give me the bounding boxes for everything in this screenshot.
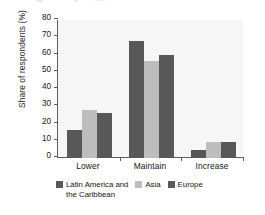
y-axis-title: Share of respondents (%) — [17, 0, 27, 119]
bar-chart-figure: Share of respondents (%) 010203040506070… — [0, 0, 265, 215]
legend-label: Latin America and — [66, 180, 128, 190]
scan-artifact-blob — [36, 0, 43, 2]
y-axis-tick-label: 40 — [42, 82, 51, 91]
bar — [221, 142, 236, 158]
y-axis-tick-label: 20 — [42, 117, 51, 126]
bar — [144, 61, 159, 158]
scan-artifact-blob — [95, 0, 105, 1]
bar-group — [182, 20, 244, 158]
y-axis-tick-label: 10 — [42, 134, 51, 143]
bar-group — [58, 20, 120, 158]
bar — [97, 113, 112, 158]
x-axis-tick — [243, 157, 244, 161]
x-axis-label-lower: Lower — [57, 161, 119, 171]
y-axis-tick-label: 30 — [42, 99, 51, 108]
legend-entry[interactable]: Europe — [168, 180, 203, 190]
y-axis-tick-label: 80 — [42, 13, 51, 22]
x-axis-labels: LowerMaintainIncrease — [57, 161, 243, 171]
bar — [191, 150, 206, 158]
y-axis-tick-label: 60 — [42, 48, 51, 57]
y-axis-tick: 80 — [54, 18, 58, 19]
legend-label: Europe — [178, 180, 203, 190]
y-axis-tick-label: 70 — [42, 30, 51, 39]
legend-swatch-icon — [168, 181, 175, 188]
bar — [159, 55, 174, 159]
bar — [206, 142, 221, 158]
bar-group — [120, 20, 182, 158]
bar — [129, 41, 144, 158]
y-axis-tick-label: 50 — [42, 65, 51, 74]
plot-wrapper: 01020304050607080 — [57, 20, 243, 158]
bar — [67, 130, 82, 158]
legend-entry[interactable]: Latin America and — [56, 180, 128, 190]
x-axis-label-maintain: Maintain — [119, 161, 181, 171]
y-axis-tick-label: 0 — [46, 151, 51, 160]
legend-swatch-icon — [56, 181, 63, 188]
legend-swatch-icon — [135, 181, 142, 188]
plot-area: 01020304050607080 — [57, 20, 243, 158]
scan-artifact — [0, 0, 265, 6]
legend-label: Asia — [145, 180, 160, 190]
legend-entry-continuation: the Caribbean — [66, 190, 256, 200]
legend-entry[interactable]: Asia — [135, 180, 160, 190]
bar-groups — [58, 20, 244, 158]
scan-artifact-blob — [74, 0, 78, 2]
x-axis-label-increase: Increase — [181, 161, 243, 171]
bar — [82, 110, 97, 158]
legend-row: Latin America andAsiaEurope — [56, 180, 256, 190]
chart-legend: Latin America andAsiaEurope the Caribbea… — [56, 180, 256, 199]
